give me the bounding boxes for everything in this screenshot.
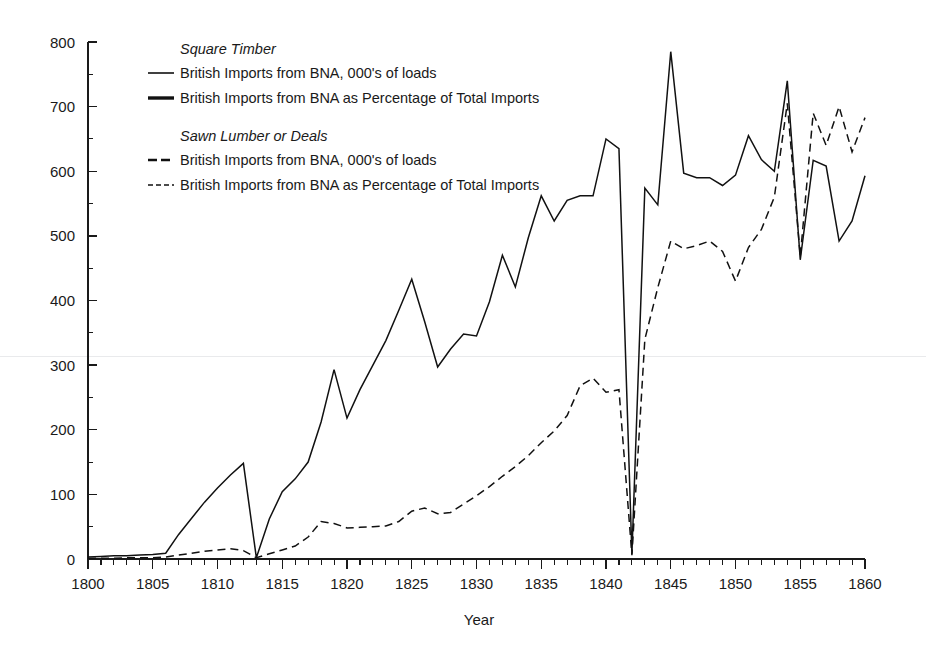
x-tick-label: 1850	[719, 575, 752, 592]
x-tick-label: 1835	[525, 575, 558, 592]
y-axis-tick-labels: 0100200300400500600700800	[50, 34, 75, 568]
x-axis-title: Year	[464, 611, 494, 628]
y-tick-label: 600	[50, 163, 75, 180]
x-axis-ticks	[88, 559, 865, 569]
y-tick-label: 700	[50, 98, 75, 115]
legend-label-1-1: British Imports from BNA as Percentage o…	[180, 177, 539, 193]
y-tick-label: 400	[50, 292, 75, 309]
x-tick-label: 1840	[589, 575, 622, 592]
x-tick-label: 1825	[395, 575, 428, 592]
x-tick-label: 1845	[654, 575, 687, 592]
series-line-1	[88, 103, 865, 558]
x-axis-tick-labels: 1800180518101815182018251830183518401845…	[71, 575, 881, 592]
y-tick-label: 800	[50, 34, 75, 51]
chart-container: 0100200300400500600700800 18001805181018…	[0, 0, 926, 659]
y-tick-label: 100	[50, 486, 75, 503]
x-tick-label: 1800	[71, 575, 104, 592]
y-tick-label: 300	[50, 357, 75, 374]
legend-group-title-0: Square Timber	[180, 41, 277, 57]
chart-legend: Square TimberBritish Imports from BNA, 0…	[148, 41, 539, 193]
x-tick-label: 1855	[784, 575, 817, 592]
axes	[88, 42, 865, 559]
legend-label-1-0: British Imports from BNA, 000's of loads	[180, 152, 437, 168]
x-tick-label: 1860	[848, 575, 881, 592]
x-tick-label: 1805	[136, 575, 169, 592]
y-tick-label: 500	[50, 227, 75, 244]
y-axis-ticks	[88, 42, 97, 559]
legend-label-0-0: British Imports from BNA, 000's of loads	[180, 65, 437, 81]
timber-imports-line-chart: 0100200300400500600700800 18001805181018…	[0, 0, 926, 659]
y-tick-label: 200	[50, 421, 75, 438]
legend-label-0-1: British Imports from BNA as Percentage o…	[180, 90, 539, 106]
x-tick-label: 1810	[201, 575, 234, 592]
x-tick-label: 1815	[266, 575, 299, 592]
y-tick-label: 0	[67, 551, 75, 568]
x-tick-label: 1830	[460, 575, 493, 592]
x-tick-label: 1820	[330, 575, 363, 592]
legend-group-title-1: Sawn Lumber or Deals	[180, 128, 328, 144]
